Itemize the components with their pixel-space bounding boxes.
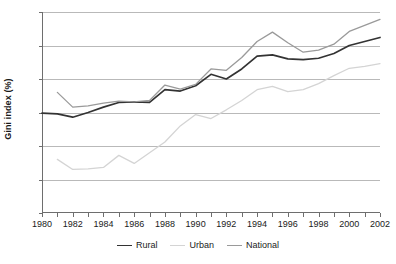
x-tick-mark xyxy=(380,213,381,217)
x-tick-label: 2002 xyxy=(370,219,390,229)
x-tick-label: 1988 xyxy=(155,219,175,229)
chart-legend: RuralUrbanNational xyxy=(0,240,396,250)
x-tick-mark xyxy=(119,213,120,217)
x-tick-label: 1980 xyxy=(32,219,52,229)
series-line-urban xyxy=(57,64,380,170)
x-tick-mark xyxy=(57,213,58,217)
x-tick-mark xyxy=(334,213,335,217)
x-tick-label: 1998 xyxy=(309,219,329,229)
x-tick-label: 1982 xyxy=(63,219,83,229)
x-tick-mark xyxy=(73,213,74,217)
x-tick-mark xyxy=(150,213,151,217)
legend-item-urban[interactable]: Urban xyxy=(170,240,214,250)
x-tick-mark xyxy=(211,213,212,217)
series-line-national xyxy=(57,19,380,107)
x-tick-label: 2000 xyxy=(339,219,359,229)
legend-swatch-urban xyxy=(170,245,185,246)
legend-label: Urban xyxy=(189,240,214,250)
x-tick-label: 1994 xyxy=(247,219,267,229)
legend-label: National xyxy=(246,240,279,250)
x-tick-label: 1996 xyxy=(278,219,298,229)
x-tick-mark xyxy=(196,213,197,217)
x-tick-mark xyxy=(242,213,243,217)
legend-item-national[interactable]: National xyxy=(227,240,279,250)
legend-label: Rural xyxy=(136,240,158,250)
x-tick-label: 1984 xyxy=(93,219,113,229)
x-tick-label: 1990 xyxy=(186,219,206,229)
y-axis-title-text: Gini index (%) xyxy=(3,78,13,139)
x-tick-mark xyxy=(134,213,135,217)
x-tick-mark xyxy=(319,213,320,217)
legend-item-rural[interactable]: Rural xyxy=(117,240,158,250)
x-tick-mark xyxy=(165,213,166,217)
legend-swatch-rural xyxy=(117,245,132,246)
x-tick-mark xyxy=(180,213,181,217)
x-tick-mark xyxy=(303,213,304,217)
y-axis-title: Gini index (%) xyxy=(0,0,18,218)
x-tick-mark xyxy=(42,213,43,217)
x-tick-mark xyxy=(103,213,104,217)
line-chart: Gini index (%) 10152025303540 1980198219… xyxy=(0,0,396,264)
plot-area: 10152025303540 1980198219841986198819901… xyxy=(42,12,380,213)
x-tick-mark xyxy=(88,213,89,217)
x-tick-mark xyxy=(288,213,289,217)
x-tick-mark xyxy=(272,213,273,217)
x-tick-label: 1992 xyxy=(216,219,236,229)
x-tick-label: 1986 xyxy=(124,219,144,229)
x-tick-mark xyxy=(257,213,258,217)
x-tick-mark xyxy=(365,213,366,217)
x-tick-mark xyxy=(226,213,227,217)
x-tick-mark xyxy=(349,213,350,217)
data-series-layer xyxy=(42,12,380,213)
legend-swatch-national xyxy=(227,245,242,246)
